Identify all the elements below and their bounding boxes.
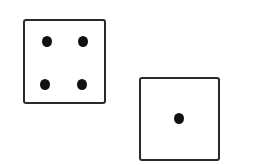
pip-dot-icon [77, 79, 87, 90]
pip-dot-icon [40, 79, 50, 90]
die-four [23, 19, 106, 104]
pip-dot-icon [42, 36, 52, 47]
pip-dot-icon [78, 36, 88, 47]
pip-dot-icon [174, 113, 184, 124]
